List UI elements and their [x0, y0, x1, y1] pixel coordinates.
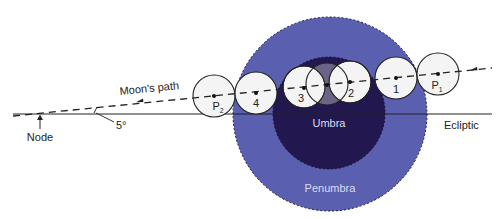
path-direction-arrow-icon	[136, 99, 143, 103]
moon-label-2: 2	[348, 87, 354, 99]
moons-path-label: Moon's path	[119, 79, 179, 97]
node-arrow-icon	[37, 115, 43, 130]
ecliptic-label: Ecliptic	[444, 119, 479, 131]
node-label: Node	[27, 131, 53, 143]
angle-arc-icon	[94, 107, 97, 113]
umbra-label: Umbra	[312, 117, 346, 129]
moon-label-3: 3	[298, 92, 304, 104]
path-direction-arrow-icon	[470, 67, 477, 71]
angle-label: 5°	[116, 119, 127, 131]
penumbra-label: Penumbra	[305, 182, 357, 194]
lunar-eclipse-diagram: P2 4 3 2 1 P1 Node 5° Moon's path Eclipt…	[0, 0, 502, 219]
moon-label-1: 1	[393, 83, 399, 95]
moon-label-4: 4	[253, 97, 259, 109]
